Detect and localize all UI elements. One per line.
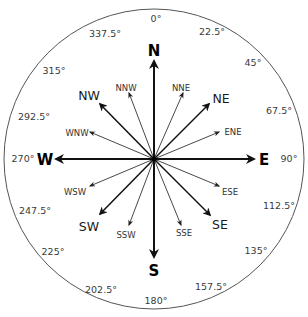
label-nw: NW (78, 88, 100, 103)
label-s: S (149, 262, 160, 280)
arrow-wnw (90, 132, 154, 159)
deg-67-5: 67.5° (266, 105, 292, 116)
label-sw: SW (79, 219, 99, 234)
label-sse: SSE (176, 228, 192, 238)
deg-270: 270° (12, 153, 35, 164)
deg-90: 90° (281, 153, 298, 164)
arrow-ne (154, 104, 209, 159)
label-ne: NE (212, 91, 229, 106)
compass-rose: N E S W NE SE SW NW NNE ENE ESE SSE SSW … (0, 0, 308, 317)
deg-45: 45° (245, 57, 262, 68)
label-ene: ENE (224, 127, 241, 137)
deg-202-5: 202.5° (85, 284, 117, 295)
deg-0: 0° (151, 13, 162, 24)
label-wnw: WNW (65, 128, 89, 138)
label-e: E (259, 151, 269, 169)
deg-180: 180° (145, 295, 168, 306)
label-w: W (37, 151, 54, 169)
deg-337-5: 337.5° (89, 28, 121, 39)
deg-292-5: 292.5° (18, 111, 50, 122)
label-nne: NNE (172, 83, 190, 93)
label-wsw: WSW (64, 187, 87, 197)
deg-22-5: 22.5° (199, 26, 225, 37)
arrow-nw (100, 104, 154, 159)
deg-112-5: 112.5° (263, 200, 295, 211)
deg-157-5: 157.5° (195, 281, 227, 292)
arrow-nnw (129, 93, 154, 159)
deg-247-5: 247.5° (19, 205, 51, 216)
arrow-sw (100, 159, 154, 214)
label-nnw: NNW (115, 83, 137, 93)
label-ese: ESE (222, 187, 238, 197)
label-n: N (148, 42, 161, 60)
deg-315: 315° (43, 65, 66, 76)
center-point (152, 157, 157, 162)
arrow-wsw (90, 159, 154, 186)
label-ssw: SSW (116, 230, 136, 240)
label-se: SE (212, 217, 228, 232)
arrow-se (154, 159, 210, 215)
arrow-ssw (129, 159, 154, 225)
deg-225: 225° (42, 246, 65, 257)
deg-135: 135° (245, 245, 268, 256)
